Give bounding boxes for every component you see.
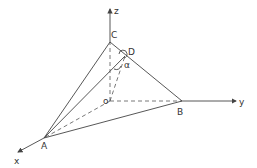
tetrahedron-diagram: z y x C D o B A α <box>0 0 257 168</box>
edge-AB <box>44 101 182 138</box>
point-B-label: B <box>177 107 183 117</box>
edge-OA <box>44 101 110 138</box>
edge-AC <box>44 42 110 138</box>
point-O-label: o <box>103 96 109 106</box>
point-C-label: C <box>111 30 117 40</box>
angle-alpha-label: α <box>124 60 130 70</box>
point-D-label: D <box>128 47 135 57</box>
right-angle-marker <box>119 50 127 58</box>
x-axis-label: x <box>14 156 20 166</box>
z-axis-label: z <box>114 6 119 16</box>
edge-OD <box>110 56 125 101</box>
point-A-label: A <box>41 141 48 151</box>
edge-AD <box>44 56 125 138</box>
y-axis-label: y <box>239 97 245 107</box>
